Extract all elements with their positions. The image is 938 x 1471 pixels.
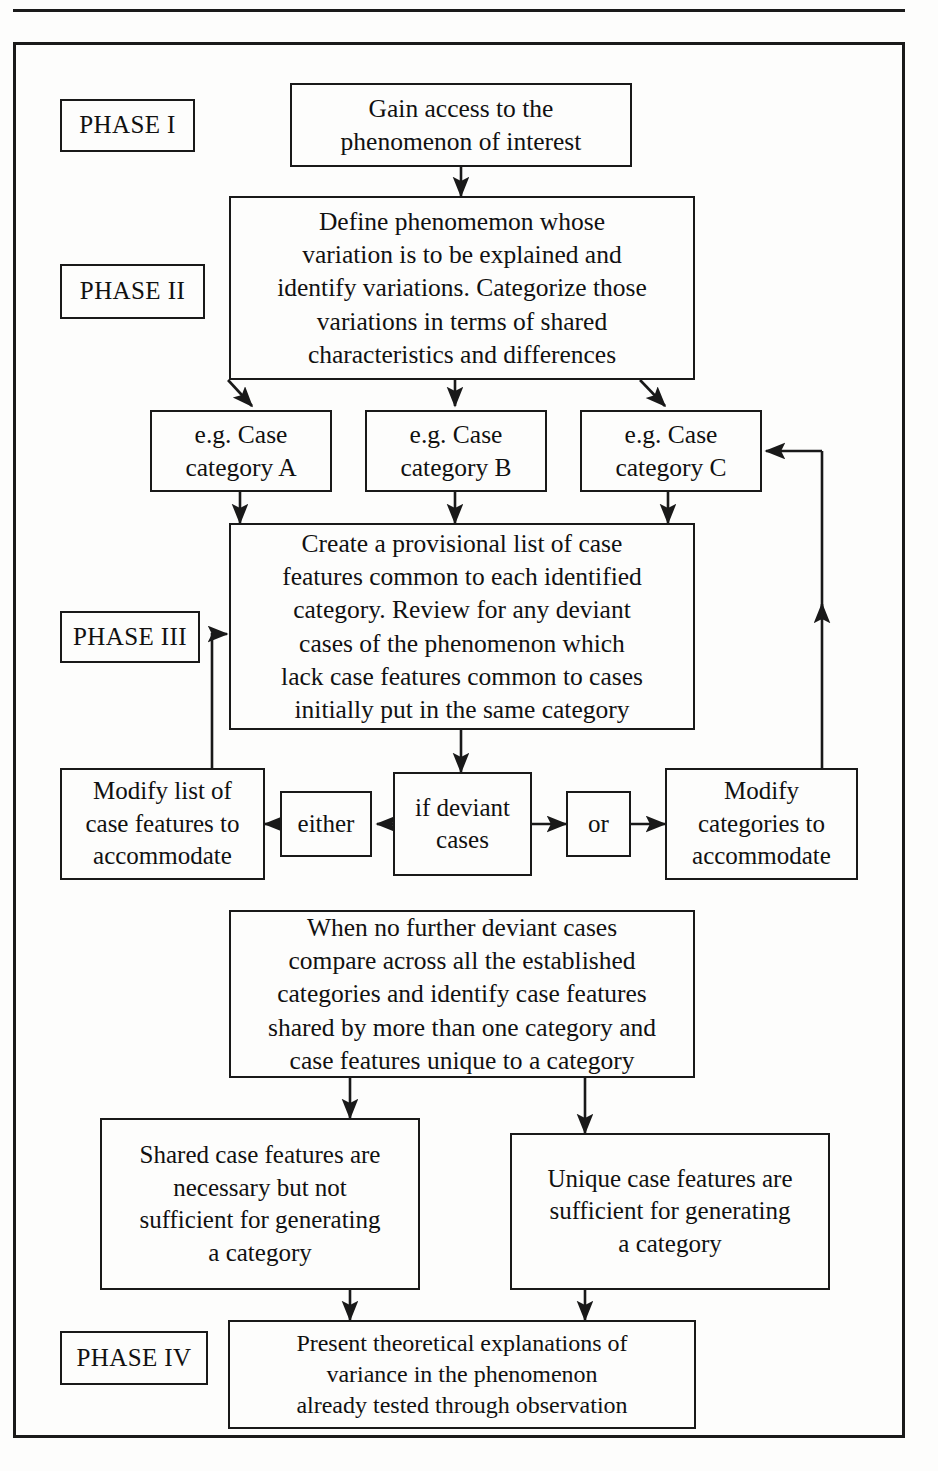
top-rule-divider	[13, 9, 905, 12]
node-if-deviant-text: if deviant cases	[415, 792, 510, 857]
node-or-text: or	[588, 808, 609, 841]
node-case-category-b: e.g. Case category B	[365, 410, 547, 492]
node-or: or	[566, 791, 631, 857]
figure-page: PHASE I PHASE II PHASE III PHASE IV Gain…	[0, 0, 938, 1471]
node-compare-established: When no further deviant cases compare ac…	[229, 910, 695, 1078]
node-case-category-c-text: e.g. Case category C	[615, 418, 726, 484]
node-either: either	[280, 791, 372, 857]
node-either-text: either	[298, 808, 355, 841]
node-modify-features: Modify list of case features to accommod…	[60, 768, 265, 880]
node-unique-features-text: Unique case features are sufficient for …	[548, 1163, 793, 1261]
node-case-category-a: e.g. Case category A	[150, 410, 332, 492]
node-define-phenomenon: Define phenomemon whose variation is to …	[229, 196, 695, 380]
phase-label-3: PHASE III	[60, 611, 200, 663]
node-compare-established-text: When no further deviant cases compare ac…	[268, 911, 656, 1077]
phase-label-4: PHASE IV	[60, 1331, 208, 1385]
node-shared-features: Shared case features are necessary but n…	[100, 1118, 420, 1290]
node-case-category-a-text: e.g. Case category A	[185, 418, 296, 484]
phase-label-1: PHASE I	[60, 99, 195, 152]
node-provisional-list: Create a provisional list of case featur…	[229, 523, 695, 730]
node-present-theory-text: Present theoretical explanations of vari…	[296, 1328, 627, 1422]
node-provisional-list-text: Create a provisional list of case featur…	[281, 527, 643, 726]
phase-label-1-text: PHASE I	[79, 109, 176, 142]
phase-label-3-text: PHASE III	[73, 621, 187, 654]
phase-label-4-text: PHASE IV	[76, 1342, 191, 1375]
node-gain-access: Gain access to the phenomenon of interes…	[290, 83, 632, 167]
node-case-category-b-text: e.g. Case category B	[400, 418, 511, 484]
node-case-category-c: e.g. Case category C	[580, 410, 762, 492]
phase-label-2: PHASE II	[60, 264, 205, 319]
node-unique-features: Unique case features are sufficient for …	[510, 1133, 830, 1290]
phase-label-2-text: PHASE II	[80, 275, 185, 308]
node-if-deviant: if deviant cases	[393, 772, 532, 876]
node-gain-access-text: Gain access to the phenomenon of interes…	[341, 92, 582, 158]
node-define-phenomenon-text: Define phenomemon whose variation is to …	[277, 205, 647, 371]
node-modify-categories-text: Modify categories to accommodate	[692, 775, 831, 873]
node-shared-features-text: Shared case features are necessary but n…	[139, 1139, 380, 1269]
node-modify-categories: Modify categories to accommodate	[665, 768, 858, 880]
node-modify-features-text: Modify list of case features to accommod…	[85, 775, 239, 873]
node-present-theory: Present theoretical explanations of vari…	[228, 1320, 696, 1429]
